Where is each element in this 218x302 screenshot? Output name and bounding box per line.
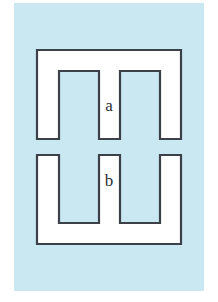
piece-a-label: a bbox=[105, 96, 113, 115]
piece-a-shape bbox=[37, 50, 181, 139]
figure-page: a b bbox=[0, 0, 218, 302]
interlocking-pieces-diagram: a b bbox=[0, 0, 218, 302]
piece-b-label: b bbox=[105, 171, 114, 190]
piece-b-shape bbox=[37, 155, 181, 244]
